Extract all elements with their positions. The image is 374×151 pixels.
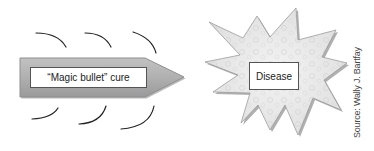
magic-bullet-label: “Magic bullet” cure — [47, 72, 129, 83]
magic-bullet-label-box: “Magic bullet” cure — [30, 67, 147, 88]
motion-line — [133, 32, 156, 53]
motion-lines-below — [32, 106, 154, 129]
motion-line — [85, 33, 111, 47]
motion-line — [79, 106, 106, 124]
source-credit: Source: Wally J. Bartfay — [352, 47, 362, 138]
disease-label-box: Disease — [249, 62, 299, 90]
motion-line — [32, 108, 58, 119]
disease-label: Disease — [256, 71, 292, 82]
motion-line — [36, 33, 66, 47]
motion-line — [121, 106, 154, 129]
motion-lines-above — [36, 32, 156, 53]
